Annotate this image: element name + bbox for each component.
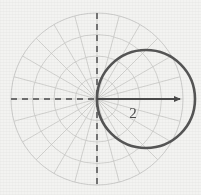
polar-plot-figure: 2 [0, 0, 201, 195]
diameter-label: 2 [129, 105, 137, 121]
polar-plot-canvas: 2 [0, 0, 201, 195]
plot-background [0, 0, 201, 195]
